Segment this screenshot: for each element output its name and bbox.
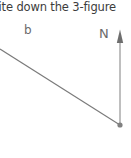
vertex-point-dot [117,122,122,127]
figure-root: rite down the 3-figure b N [0,0,131,158]
bearing-line [0,49,120,125]
north-arrowhead-icon [117,30,123,44]
label-north: N [99,26,109,41]
bearing-diagram [0,0,131,158]
label-point-b: b [24,23,32,37]
